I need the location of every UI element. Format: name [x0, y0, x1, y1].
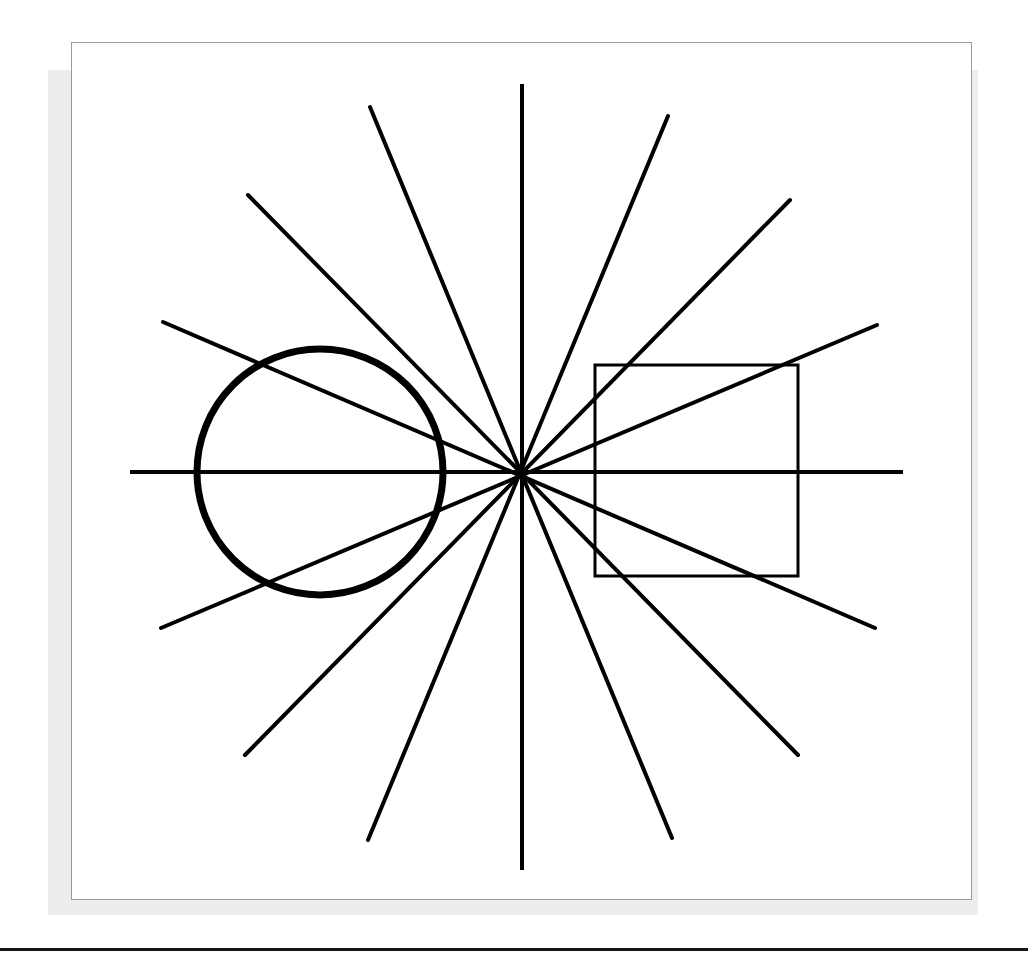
page-root	[0, 0, 1028, 960]
geometric-figure	[0, 0, 1028, 960]
ray-ssw-to-nne	[368, 116, 668, 840]
page-bottom-rule	[0, 948, 1028, 951]
